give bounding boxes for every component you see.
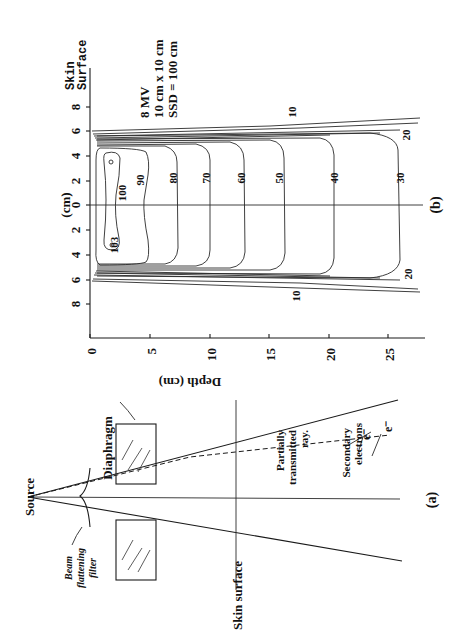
svg-text:6: 6 — [68, 276, 83, 283]
filter-label-1: Beam — [63, 556, 74, 581]
svg-text:0: 0 — [84, 348, 99, 355]
panel-a-label: (a) — [424, 492, 440, 509]
beam-central-axis — [28, 497, 400, 499]
secondary-label-2: electrons — [352, 422, 364, 465]
partial-ray-label-3: ray. — [298, 430, 310, 448]
partial-ray-label-1: Partially — [274, 430, 286, 471]
diaphragm-arrow — [120, 402, 135, 420]
svg-text:50: 50 — [273, 172, 285, 184]
svg-text:2: 2 — [68, 178, 83, 185]
diaphragm-label: Diaphragm — [100, 416, 115, 480]
field-size-label: 10 cm x 10 cm — [151, 39, 166, 118]
svg-text:20: 20 — [400, 129, 412, 141]
beam-diagram: e⁻ e⁻ Source Diaphragm Beam flattening f… — [22, 400, 440, 630]
beam-energy-label: 8 MV — [137, 86, 152, 118]
source-label: Source — [22, 478, 37, 516]
svg-text:6: 6 — [68, 127, 83, 134]
svg-text:20: 20 — [402, 268, 414, 280]
svg-text:10: 10 — [290, 290, 302, 302]
diaphragm-lower — [116, 520, 156, 580]
svg-text:70: 70 — [200, 172, 212, 184]
svg-text:8: 8 — [68, 103, 83, 110]
electron-symbol-2: e⁻ — [381, 421, 395, 432]
skin-surface-label-2: Surface — [76, 40, 90, 90]
svg-text:10: 10 — [204, 348, 219, 361]
filter-label-2: flattening — [75, 548, 86, 588]
ssd-label: SSD = 100 cm — [165, 41, 180, 118]
svg-text:103: 103 — [108, 236, 120, 253]
depth-ticks — [90, 334, 388, 338]
svg-text:90: 90 — [134, 174, 146, 186]
svg-text:15: 15 — [263, 348, 278, 362]
partial-ray-label-2: transmitted — [286, 430, 298, 485]
svg-text:80: 80 — [167, 172, 179, 184]
filter-arrow — [72, 527, 82, 545]
svg-text:20: 20 — [323, 348, 338, 361]
secondary-label-1: Secondary — [340, 428, 352, 478]
svg-text:25: 25 — [382, 348, 397, 362]
svg-text:30: 30 — [394, 172, 406, 184]
svg-text:10: 10 — [286, 106, 298, 118]
isodose-chart: 8 6 4 2 0 2 4 6 8 (cm) Skin Surface 8 MV… — [58, 39, 444, 390]
depth-axis-label: Depth (cm) — [159, 375, 221, 390]
svg-text:100: 100 — [116, 184, 128, 201]
diaphragm-upper — [116, 424, 156, 484]
svg-text:60: 60 — [235, 172, 247, 184]
skin-surface-label: Skin surface — [230, 561, 245, 630]
lateral-ticks — [86, 107, 90, 304]
depth-tick-labels: 0 5 10 15 20 25 — [84, 348, 397, 362]
lateral-unit-label: (cm) — [58, 192, 73, 217]
svg-text:40: 40 — [328, 172, 340, 184]
figure-canvas: 8 6 4 2 0 2 4 6 8 (cm) Skin Surface 8 MV… — [0, 0, 467, 638]
partial-ray-dashed — [28, 435, 390, 497]
svg-text:2: 2 — [68, 227, 83, 234]
svg-text:4: 4 — [68, 251, 83, 258]
panel-b-label: (b) — [428, 196, 444, 213]
svg-text:5: 5 — [144, 348, 159, 355]
svg-text:4: 4 — [68, 152, 83, 159]
filter-label-3: filter — [87, 558, 98, 578]
svg-text:8: 8 — [68, 300, 83, 307]
